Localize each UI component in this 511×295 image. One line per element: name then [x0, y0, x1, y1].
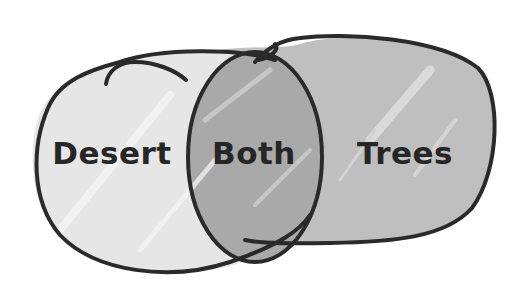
venn-diagram: Desert Both Trees: [0, 0, 511, 295]
desert-label: Desert: [52, 135, 171, 171]
trees-label: Trees: [357, 135, 453, 171]
both-label: Both: [212, 135, 296, 171]
